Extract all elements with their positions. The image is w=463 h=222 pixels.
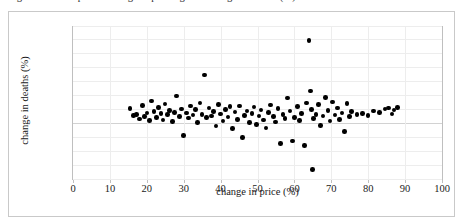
data-point [323,95,328,100]
data-point [299,111,304,116]
figure-caption: Figure 3. Scatterplot of change in price… [8,0,455,3]
data-point [349,109,354,114]
data-point [235,117,240,122]
data-point [226,115,231,120]
data-point [165,112,170,117]
data-point [285,96,290,101]
data-point [145,111,150,116]
data-point [128,106,133,111]
data-point [345,101,350,106]
data-point [266,110,271,115]
data-point [195,120,200,125]
data-point [247,120,252,125]
x-gridline [368,26,369,179]
x-tick-label: 80 [348,183,388,195]
x-tick-label: 100 [422,183,462,195]
data-point [156,105,161,110]
scatter-figure: Figure 3. Scatterplot of change in price… [0,0,463,222]
data-point [218,112,223,117]
data-point [261,118,266,123]
x-gridline [110,26,111,179]
data-point [154,115,159,120]
data-point [134,112,139,117]
x-gridline [221,26,222,179]
x-gridline [405,26,406,179]
data-point [316,102,321,107]
data-point [230,126,235,131]
data-point [186,116,191,121]
data-point [318,123,323,128]
data-point [314,112,319,117]
data-point [355,112,360,117]
data-point [193,107,198,112]
data-point [283,116,288,121]
data-point [264,126,269,131]
data-point [172,110,177,115]
data-point [330,100,335,105]
data-point [242,113,247,118]
data-point [233,110,238,115]
data-point [257,114,262,119]
x-gridline [147,26,148,179]
data-point [360,111,365,116]
data-point [198,101,203,106]
x-gridline [184,26,185,179]
data-point [276,106,281,111]
data-point [254,122,259,127]
data-point [209,114,214,119]
data-point [181,133,186,138]
data-point [191,113,196,118]
data-point [149,99,154,104]
data-point [142,114,147,119]
data-point [214,124,219,129]
x-tick-label: 60 [274,183,314,195]
data-point [310,167,315,172]
data-point [223,107,228,112]
data-point [326,108,331,113]
data-point [288,109,293,114]
data-point [179,107,184,112]
x-tick-label: 10 [90,183,130,195]
data-point [337,117,342,122]
data-point [271,114,276,119]
data-point [342,129,347,134]
data-point [297,118,302,123]
data-point [245,109,250,114]
plot-area: 35.0030.0025.0020.0015.0010.005.000.00−5… [72,26,443,180]
data-point [307,38,312,43]
data-point [163,102,168,107]
data-point [152,109,157,114]
data-point [268,103,273,108]
data-point [278,141,283,146]
data-point [308,89,313,94]
x-gridline [294,26,295,179]
data-point [137,117,142,122]
data-point [240,135,245,140]
data-point [211,109,216,114]
data-point [335,106,340,111]
data-point [147,118,152,123]
data-point [304,101,309,106]
data-point [333,113,338,118]
data-point [273,120,278,125]
data-point [371,109,376,114]
data-point [159,111,164,116]
x-gridline [258,26,259,179]
x-tick-label: 50 [238,183,278,195]
data-point [311,116,316,121]
data-point [386,106,391,111]
x-tick-label: 20 [127,183,167,195]
data-point [395,105,400,110]
data-point [237,104,242,109]
x-tick-label: 90 [385,183,425,195]
data-point [184,111,189,116]
data-point [177,114,182,119]
x-tick-label: 40 [201,183,241,195]
data-point [377,110,382,115]
data-point [390,112,395,117]
data-point [340,111,345,116]
y-axis-title: change in deaths (%) [19,36,30,166]
data-point [140,103,145,108]
x-tick-label: 70 [311,183,351,195]
data-point [366,113,371,118]
